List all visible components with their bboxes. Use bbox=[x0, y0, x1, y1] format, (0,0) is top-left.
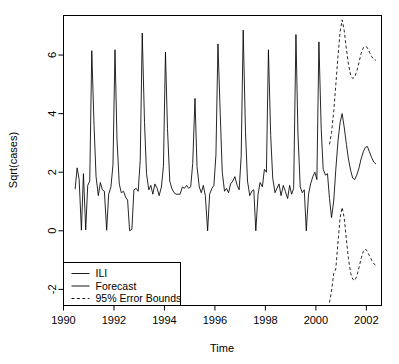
chart-figure: 1990199219941996199820002002 -20246 ILIF… bbox=[0, 0, 399, 364]
x-tick-label: 1994 bbox=[152, 314, 176, 326]
legend-label-forecast: Forecast bbox=[96, 280, 137, 292]
y-tick-label: 4 bbox=[46, 111, 58, 117]
legend-label-ili: ILI bbox=[96, 267, 108, 279]
y-tick-label: -2 bbox=[46, 284, 58, 294]
y-axis-title: Sqrt(cases) bbox=[7, 132, 19, 188]
x-tick-label: 1998 bbox=[253, 314, 277, 326]
x-axis-title: Time bbox=[210, 342, 234, 354]
chart-legend: ILIForecast95% Error Bounds bbox=[64, 263, 182, 306]
x-tick-label: 1996 bbox=[203, 314, 227, 326]
x-tick-label: 2002 bbox=[354, 314, 378, 326]
y-tick-label: 6 bbox=[46, 52, 58, 58]
y-tick-label: 2 bbox=[46, 169, 58, 175]
y-tick-label: 0 bbox=[46, 228, 58, 234]
legend-label-95-error-bounds: 95% Error Bounds bbox=[96, 292, 182, 304]
time-series-chart: 1990199219941996199820002002 -20246 ILIF… bbox=[0, 0, 399, 364]
x-tick-label: 1992 bbox=[102, 314, 126, 326]
x-tick-label: 2000 bbox=[304, 314, 328, 326]
x-tick-label: 1990 bbox=[51, 314, 75, 326]
